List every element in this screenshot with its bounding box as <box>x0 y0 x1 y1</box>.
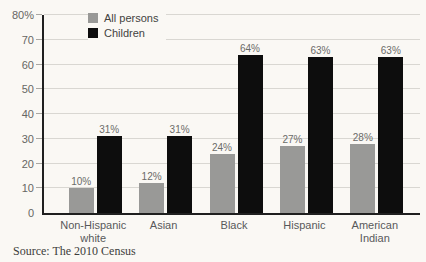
bar-group: 24%64% <box>201 43 271 213</box>
bar <box>210 154 235 213</box>
bar-group: 10%31% <box>60 124 130 213</box>
bar-column: 31% <box>97 124 122 213</box>
bar-value-label: 63% <box>310 45 330 56</box>
legend-row: All persons <box>88 12 158 24</box>
bar-groups: 10%31%12%31%24%64%27%63%28%63% <box>44 15 420 213</box>
y-axis-tick <box>36 113 42 114</box>
bar-value-label: 31% <box>99 124 119 135</box>
y-axis-label: 10 <box>22 182 34 194</box>
bar-value-label: 10% <box>71 176 91 187</box>
bar-column: 27% <box>280 134 305 213</box>
y-axis-tick <box>36 14 42 15</box>
y-axis-tick <box>36 138 42 139</box>
category-label: Non-Hispanic white <box>58 219 128 245</box>
bar-value-label: 12% <box>142 171 162 182</box>
y-axis-label: 0 <box>28 207 34 219</box>
category-label: Asian <box>128 219 198 245</box>
category-label: Black <box>199 219 269 245</box>
bar <box>97 136 122 213</box>
bar-column: 63% <box>378 45 403 213</box>
bar-value-label: 63% <box>381 45 401 56</box>
bar-column: 10% <box>69 176 94 213</box>
legend-label: All persons <box>104 12 158 24</box>
bar <box>350 144 375 213</box>
legend-swatch <box>88 28 98 38</box>
bar-column: 31% <box>167 124 192 213</box>
y-axis-tick <box>36 88 42 89</box>
bar-column: 63% <box>308 45 333 213</box>
bar <box>280 146 305 213</box>
bar-group: 12%31% <box>130 124 200 213</box>
bar <box>139 183 164 213</box>
y-axis-label: 70 <box>22 34 34 46</box>
bar-column: 28% <box>350 132 375 213</box>
bar <box>167 136 192 213</box>
y-axis-label: 50 <box>22 83 34 95</box>
y-axis-label: 30 <box>22 133 34 145</box>
category-label: Hispanic <box>269 219 339 245</box>
legend-row: Children <box>88 27 158 39</box>
bar-column: 24% <box>210 142 235 213</box>
bar-chart-figure: 80%706050403020100 10%31%12%31%24%64%27%… <box>0 0 426 262</box>
y-axis-label: 20 <box>22 158 34 170</box>
x-axis-labels: Non-Hispanic whiteAsianBlackHispanicAmer… <box>42 219 418 245</box>
bar-column: 12% <box>139 171 164 213</box>
bar <box>308 57 333 213</box>
bar-value-label: 28% <box>353 132 373 143</box>
bar <box>69 188 94 213</box>
category-label: American Indian <box>340 219 410 245</box>
bar-value-label: 31% <box>170 124 190 135</box>
y-axis-tick <box>36 187 42 188</box>
bar-column: 64% <box>238 43 263 213</box>
bar-value-label: 64% <box>240 43 260 54</box>
y-axis-tick <box>36 39 42 40</box>
y-axis: 80%706050403020100 <box>0 15 36 213</box>
bar <box>378 57 403 213</box>
legend-label: Children <box>104 27 145 39</box>
source-note: Source: The 2010 Census <box>13 244 136 259</box>
y-axis-tick <box>36 163 42 164</box>
legend: All personsChildren <box>88 11 166 41</box>
bar-value-label: 27% <box>282 134 302 145</box>
y-axis-label: 60 <box>22 59 34 71</box>
bar <box>238 55 263 213</box>
y-axis-label: 40 <box>22 108 34 120</box>
y-axis-tick <box>36 64 42 65</box>
bar-group: 27%63% <box>271 45 341 213</box>
bar-value-label: 24% <box>212 142 232 153</box>
y-axis-label: 80% <box>12 9 34 21</box>
bar-group: 28%63% <box>342 45 412 213</box>
plot-area: 10%31%12%31%24%64%27%63%28%63% All perso… <box>42 15 420 215</box>
legend-swatch <box>88 13 98 23</box>
